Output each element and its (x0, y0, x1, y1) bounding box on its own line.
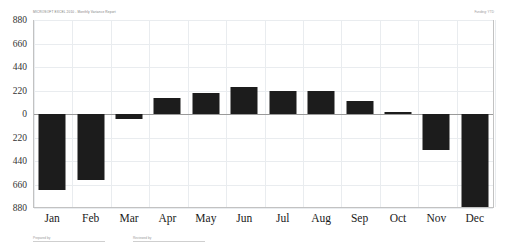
report-title: MICROSOFT EXCEL 2010 - Monthly Variance … (33, 10, 116, 14)
y-axis-tick-label: 880 (13, 203, 27, 213)
y-axis-tick-label: 660 (13, 180, 27, 190)
bar-slot (417, 20, 455, 208)
bar-slot (148, 20, 186, 208)
x-axis-label-dec: Dec (466, 212, 485, 224)
bar-nov[interactable] (423, 114, 450, 150)
bar-slot (187, 20, 225, 208)
signature-label: Reviewed by (133, 236, 205, 240)
bar-slot (225, 20, 263, 208)
x-axis: JanFebMarAprMayJunJulAugSepOctNovDec (33, 209, 494, 229)
x-axis-label-apr: Apr (159, 212, 177, 224)
signature-rule (33, 241, 105, 242)
bar-dec[interactable] (461, 114, 488, 207)
y-axis-tick-label: 0 (22, 109, 27, 119)
signature-rule (133, 241, 205, 242)
bar-slot (110, 20, 148, 208)
header-note: Funding: YTD (474, 10, 494, 14)
x-axis-label-jan: Jan (45, 212, 60, 224)
bar-slot (71, 20, 109, 208)
y-axis-tick-label: 880 (13, 15, 27, 25)
bar-slot (340, 20, 378, 208)
bar-slot (33, 20, 71, 208)
x-axis-label-nov: Nov (426, 212, 446, 224)
x-axis-label-oct: Oct (390, 212, 407, 224)
bar-slot (264, 20, 302, 208)
bar-aug[interactable] (308, 91, 335, 114)
signature-label: Prepared by (33, 236, 105, 240)
x-axis-label-aug: Aug (311, 212, 331, 224)
x-axis-label-sep: Sep (351, 212, 368, 224)
bar-mar[interactable] (116, 114, 143, 119)
x-axis-label-mar: Mar (119, 212, 138, 224)
footer-signature-block: Prepared byReviewed by (33, 236, 233, 246)
bar-may[interactable] (192, 93, 219, 114)
bar-slot (379, 20, 417, 208)
y-axis-tick-label: 660 (13, 39, 27, 49)
bar-sep[interactable] (346, 101, 373, 114)
bar-jun[interactable] (231, 87, 258, 114)
y-axis-tick-label: 220 (13, 86, 27, 96)
chart-page: MICROSOFT EXCEL 2010 - Monthly Variance … (0, 0, 525, 252)
bar-oct[interactable] (384, 112, 411, 114)
bar-feb[interactable] (77, 114, 104, 180)
bar-series (33, 20, 494, 208)
bar-jan[interactable] (39, 114, 66, 190)
bar-jul[interactable] (269, 91, 296, 114)
x-axis-label-jun: Jun (236, 212, 252, 224)
x-axis-label-jul: Jul (276, 212, 289, 224)
bar-apr[interactable] (154, 98, 181, 114)
signature-field: Prepared by (33, 236, 105, 242)
x-axis-label-feb: Feb (82, 212, 99, 224)
y-axis-tick-label: 440 (13, 62, 27, 72)
bar-slot (302, 20, 340, 208)
y-axis: 8806604402200220440660880 (0, 20, 31, 208)
gridline-vertical (495, 20, 496, 207)
y-axis-tick-label: 220 (13, 133, 27, 143)
bar-slot (456, 20, 494, 208)
x-axis-label-may: May (195, 212, 216, 224)
signature-field: Reviewed by (133, 236, 205, 242)
y-axis-tick-label: 440 (13, 156, 27, 166)
